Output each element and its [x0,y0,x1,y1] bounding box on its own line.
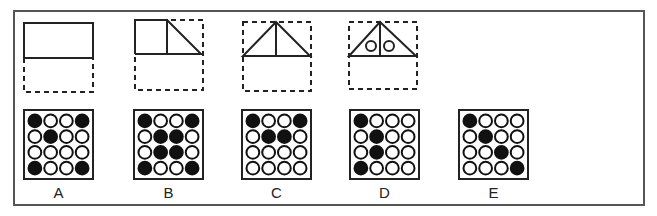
empty-circle [60,130,73,143]
filled-circle [76,162,89,175]
filled-circle [139,115,152,128]
empty-circle [294,146,307,159]
empty-circle [186,130,199,143]
empty-circle [464,146,477,159]
filled-circle [186,162,199,175]
empty-circle [511,146,524,159]
empty-circle [402,146,415,159]
empty-circle [355,130,368,143]
filled-circle [29,115,42,128]
empty-circle [511,130,524,143]
empty-circle [479,146,492,159]
empty-circle [402,115,415,128]
empty-circle [386,146,399,159]
option-d-grid[interactable] [350,110,419,179]
option-label: D [375,184,395,201]
empty-circle [495,162,508,175]
empty-circle [386,162,399,175]
figure-3-triangle [243,22,311,91]
empty-circle [29,146,42,159]
empty-circle [154,162,167,175]
filled-circle [76,115,89,128]
filled-circle [247,115,260,128]
empty-circle [262,146,275,159]
empty-circle [139,130,152,143]
option-label: E [484,184,504,201]
empty-circle [464,130,477,143]
empty-circle [44,146,57,159]
filled-circle [44,130,57,143]
empty-circle [60,115,73,128]
empty-circle [76,130,89,143]
empty-circle [44,115,57,128]
empty-circle [186,146,199,159]
empty-circle [154,115,167,128]
filled-circle [154,146,167,159]
empty-circle [294,162,307,175]
empty-circle [278,162,291,175]
empty-circle [495,115,508,128]
figure-4-triangle-circles [349,22,417,89]
empty-circle [139,146,152,159]
filled-circle [170,130,183,143]
option-label: A [49,184,69,201]
empty-circle [29,130,42,143]
empty-circle [60,162,73,175]
empty-circle [294,130,307,143]
empty-circle [386,130,399,143]
empty-circle [247,130,260,143]
empty-circle [76,146,89,159]
empty-circle [464,162,477,175]
empty-circle [44,162,57,175]
filled-circle [29,162,42,175]
empty-circle [60,146,73,159]
empty-circle [402,130,415,143]
sequence-figures [0,0,657,216]
filled-circle [495,146,508,159]
option-label: C [267,184,287,201]
empty-circle [370,162,383,175]
filled-circle [370,146,383,159]
empty-circle [278,146,291,159]
empty-circle [262,162,275,175]
empty-circle [511,115,524,128]
filled-circle [464,115,477,128]
empty-circle [262,115,275,128]
filled-circle [294,115,307,128]
filled-circle [355,162,368,175]
filled-circle [479,130,492,143]
empty-circle [370,115,383,128]
empty-circle [247,146,260,159]
filled-circle [262,130,275,143]
empty-circle [247,162,260,175]
figure-1-rectangle [24,23,93,92]
option-label: B [159,184,179,201]
empty-circle [170,162,183,175]
filled-circle [278,130,291,143]
empty-circle [495,130,508,143]
empty-circle [386,115,399,128]
filled-circle [511,162,524,175]
empty-circle [278,115,291,128]
option-b-grid[interactable] [134,110,203,179]
empty-circle [355,146,368,159]
empty-circle [479,162,492,175]
filled-circle [186,115,199,128]
empty-circle [479,115,492,128]
figure-2-square-triangle [135,20,203,90]
empty-circle [402,162,415,175]
filled-circle [139,162,152,175]
option-a-grid[interactable] [24,110,93,179]
filled-circle [370,130,383,143]
filled-circle [154,130,167,143]
option-e-grid[interactable] [459,110,528,179]
empty-circle [170,115,183,128]
option-c-grid[interactable] [242,110,311,179]
filled-circle [355,115,368,128]
filled-circle [170,146,183,159]
